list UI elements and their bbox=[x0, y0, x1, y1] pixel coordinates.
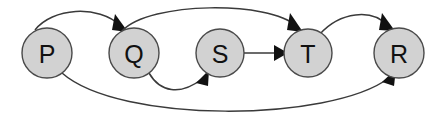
edge-q-t-path bbox=[122, 8, 296, 31]
edge-p-q-path bbox=[35, 11, 121, 30]
node-r[interactable]: R bbox=[374, 28, 424, 78]
edge-s-t bbox=[244, 45, 288, 61]
node-t[interactable]: T bbox=[284, 29, 332, 77]
node-p[interactable]: P bbox=[22, 28, 72, 78]
graph-diagram: P Q S T R bbox=[0, 0, 442, 117]
node-p-label: P bbox=[39, 40, 56, 68]
node-q-label: Q bbox=[124, 40, 143, 68]
node-t-label: T bbox=[300, 40, 315, 68]
edge-t-r-path bbox=[320, 15, 388, 34]
edge-q-t-arrowhead bbox=[287, 13, 303, 32]
edge-p-r-path bbox=[62, 73, 389, 111]
node-q[interactable]: Q bbox=[109, 28, 159, 78]
node-r-label: R bbox=[390, 40, 408, 68]
node-s-label: S bbox=[212, 40, 229, 68]
edge-q-s-path bbox=[149, 73, 202, 90]
edge-q-t bbox=[122, 8, 303, 32]
edge-q-s bbox=[149, 70, 209, 90]
node-s[interactable]: S bbox=[196, 29, 244, 77]
graph-svg: P Q S T R bbox=[0, 0, 442, 117]
edge-t-r bbox=[320, 13, 395, 34]
